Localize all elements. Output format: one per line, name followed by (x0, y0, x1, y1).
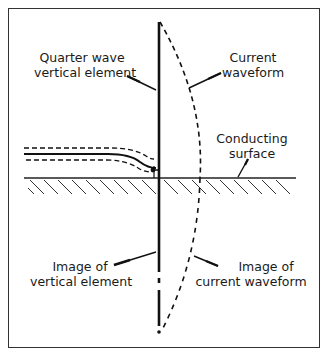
label-current-waveform-line2: waveform (220, 65, 286, 80)
image-vertical-element-tip (157, 330, 161, 334)
image-current-waveform (162, 178, 200, 330)
label-conducting-surface: Conducting surface (216, 131, 288, 161)
current-waveform (160, 22, 201, 178)
feed-line-center (24, 154, 156, 168)
label-vertical-element: Quarter wave vertical element (34, 50, 130, 80)
label-image-waveform-line2: current waveform (194, 274, 308, 289)
label-image-vertical-line1: Image of (30, 259, 130, 274)
label-conducting-surface-line1: Conducting (216, 131, 288, 146)
feed-point (151, 168, 156, 173)
label-image-vertical: Image of vertical element (30, 259, 130, 289)
label-current-waveform: Current waveform (220, 50, 286, 80)
label-conducting-surface-line2: surface (216, 146, 288, 161)
feed-line-shield-bottom (26, 160, 152, 172)
label-image-waveform-line1: Image of (194, 259, 308, 274)
label-image-waveform: Image of current waveform (194, 259, 308, 289)
label-vertical-element-line1: Quarter wave (34, 50, 130, 65)
label-vertical-element-line2: vertical element (34, 65, 130, 80)
label-image-vertical-line2: vertical element (30, 274, 130, 289)
label-current-waveform-line1: Current (220, 50, 286, 65)
